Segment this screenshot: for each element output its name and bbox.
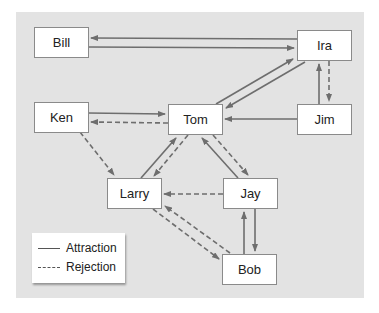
node-tom: Tom (168, 104, 223, 135)
node-jay: Jay (223, 178, 278, 209)
node-ira: Ira (297, 30, 352, 61)
edge-ira-bill (91, 38, 297, 39)
node-bob: Bob (222, 254, 277, 285)
edge-bob-larry (165, 206, 230, 253)
legend-attraction-label: Attraction (66, 241, 117, 255)
dashed-line-swatch (38, 267, 60, 268)
legend-rejection: Rejection (38, 260, 116, 274)
node-ken: Ken (34, 102, 89, 133)
node-label: Ira (317, 38, 332, 53)
node-larry: Larry (107, 178, 162, 209)
legend-attraction: Attraction (38, 241, 117, 255)
node-label: Bob (238, 262, 261, 277)
node-label: Ken (50, 110, 73, 125)
edge-tom-ira (216, 59, 293, 104)
edge-tom-larry (154, 135, 188, 176)
node-jim: Jim (297, 104, 352, 135)
edge-larry-tom (141, 138, 176, 178)
node-label: Jay (240, 186, 260, 201)
node-label: Bill (53, 35, 70, 50)
edge-tom-ken (91, 122, 168, 123)
edge-ken-larry (80, 132, 114, 175)
node-bill: Bill (34, 27, 89, 58)
node-label: Larry (120, 186, 150, 201)
node-label: Tom (183, 112, 208, 127)
legend-rejection-label: Rejection (66, 260, 116, 274)
solid-line-swatch (38, 248, 60, 249)
edge-ken-tom (88, 113, 165, 114)
edge-ira-tom (226, 62, 305, 108)
edge-larry-bob (153, 209, 219, 259)
edge-bill-ira (88, 47, 294, 48)
legend: Attraction Rejection (32, 233, 125, 283)
node-label: Jim (314, 112, 334, 127)
